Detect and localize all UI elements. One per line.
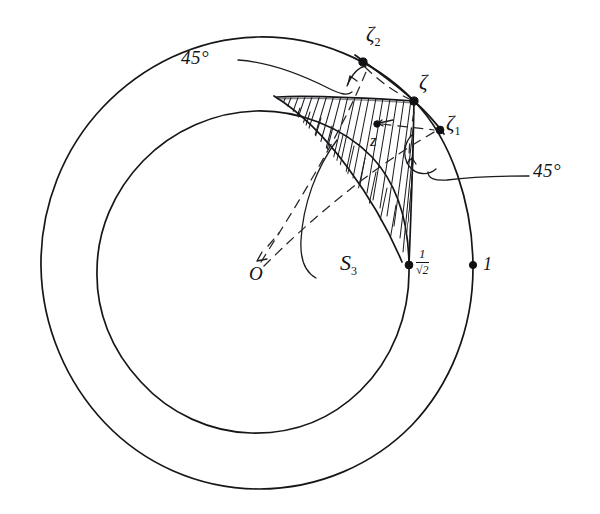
label-inner-radius-numerator: 1 xyxy=(416,247,429,263)
label-zeta2: ζ2 xyxy=(366,22,381,50)
label-region-base: S xyxy=(340,250,351,275)
label-inner-radius: 1 √2 xyxy=(416,247,429,278)
angle-label-right: 45° xyxy=(533,160,561,182)
label-outer-radius: 1 xyxy=(483,254,492,275)
dashed-chord-zeta2-zeta xyxy=(365,67,412,100)
leader-line-angle-top xyxy=(238,60,352,94)
label-region-sub: 3 xyxy=(351,264,357,278)
dot-zeta1 xyxy=(436,126,444,134)
label-z: z xyxy=(370,131,377,151)
label-zeta1: ζ1 xyxy=(446,111,461,139)
hand-drawn-annulus-diagram: 45° 45° ζ2 ζ ζ1 z O S3 1 √2 1 xyxy=(0,0,600,514)
region-hatching xyxy=(276,94,416,262)
figure-canvas xyxy=(0,0,600,514)
label-inner-radius-denominator: √2 xyxy=(416,263,429,277)
dot-zeta2 xyxy=(359,58,367,66)
label-region-s3: S3 xyxy=(340,250,357,279)
s3-leader-curve xyxy=(301,140,337,278)
label-zeta1-sub: 1 xyxy=(455,124,461,138)
dot-zeta xyxy=(410,97,418,105)
label-origin: O xyxy=(249,263,263,285)
dot-z xyxy=(374,121,380,127)
dashed-ray-to-zeta2 xyxy=(261,72,366,262)
dot-outer-radius xyxy=(469,261,476,268)
angle-marker-zeta2 xyxy=(347,66,366,86)
leader-line-angle-right xyxy=(428,172,529,180)
label-zeta2-sub: 2 xyxy=(375,35,381,49)
label-zeta: ζ xyxy=(419,70,428,95)
angle-label-top: 45° xyxy=(181,47,209,69)
dot-inner-radius xyxy=(405,261,413,269)
arrowhead-origin xyxy=(257,252,267,261)
label-zeta1-base: ζ xyxy=(446,111,455,135)
label-zeta2-base: ζ xyxy=(366,22,375,46)
